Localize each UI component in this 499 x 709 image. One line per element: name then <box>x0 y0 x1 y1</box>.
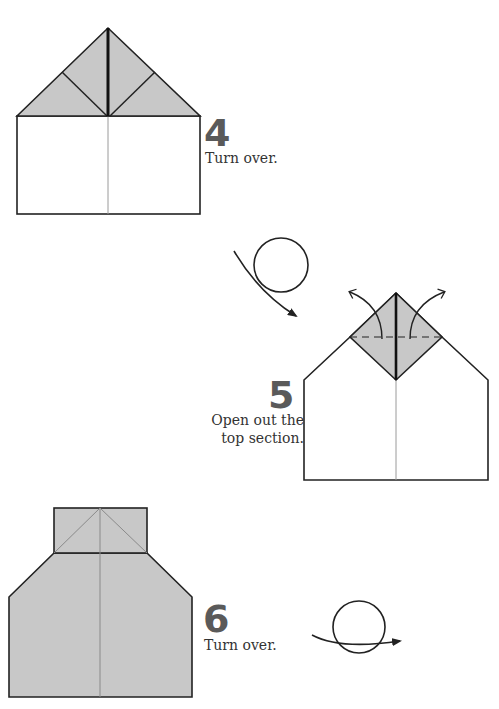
step-6-number: 6 <box>203 600 229 638</box>
step-5-instruction-line2: top section. <box>190 430 304 447</box>
step-4-instruction: Turn over. <box>205 150 278 167</box>
turn-over-arrow-icon <box>234 238 308 316</box>
step-5-number: 5 <box>268 376 294 414</box>
turn-over-arrow-icon <box>312 601 400 653</box>
step-4-figure <box>17 28 200 214</box>
step-6-figure <box>9 508 192 697</box>
step-4-number: 4 <box>204 114 230 152</box>
origami-diagram <box>0 0 499 709</box>
step-5-instruction-line1: Open out the <box>190 412 304 429</box>
step-5-figure <box>304 292 488 480</box>
step-6-instruction: Turn over. <box>204 637 277 654</box>
